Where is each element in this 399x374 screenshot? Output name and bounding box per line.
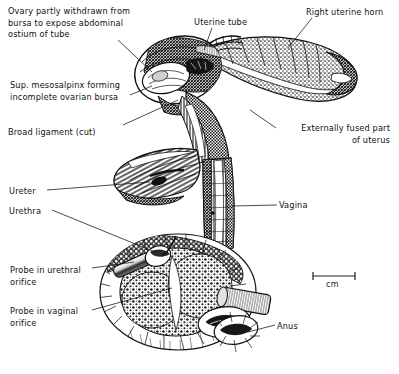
urethra-label: Urethra — [9, 206, 41, 218]
sup-mesosalpinx-label: Sup. mesosalpinx forming incomplete ovar… — [10, 80, 120, 103]
scale-bar-caption: cm — [326, 280, 339, 289]
anatomical-figure: Ovary partly withdrawn from bursa to exp… — [0, 0, 399, 374]
broad-ligament-structure — [114, 149, 200, 205]
externally-fused-uterus-label: Externally fused part of uterus — [278, 123, 390, 146]
ureter-label: Ureter — [9, 186, 36, 198]
right-uterine-horn-label: Right uterine horn — [306, 7, 383, 19]
scale-bar-graphic — [313, 272, 355, 280]
broad-ligament-label: Broad ligament (cut) — [8, 127, 96, 139]
anus-label: Anus — [277, 321, 298, 333]
probe-urethral-orifice-label: Probe in urethral orifice — [10, 265, 81, 288]
uterine-tube-label: Uterine tube — [194, 17, 247, 29]
vagina-structure — [203, 158, 234, 250]
right-uterine-horn-structure — [205, 37, 357, 101]
ovary-label: Ovary partly withdrawn from bursa to exp… — [8, 6, 130, 41]
probe-vaginal-orifice-label: Probe in vaginal orifice — [10, 306, 78, 329]
vagina-label: Vagina — [279, 200, 308, 212]
